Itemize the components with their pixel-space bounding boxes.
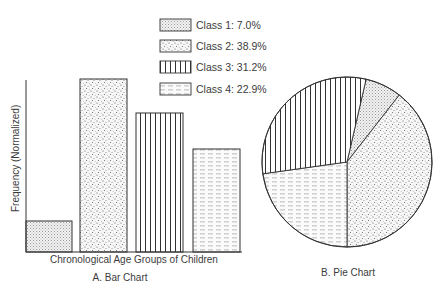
bar-class-2	[80, 79, 127, 252]
figure: Class 1: 7.0% Class 2: 38.9% Class 3: 31…	[0, 0, 446, 296]
legend-item-class-1: Class 1: 7.0%	[160, 19, 261, 31]
pie-chart: B. Pie Chart	[262, 77, 432, 278]
legend-item-class-4: Class 4: 22.9%	[160, 83, 267, 95]
legend-label: Class 1: 7.0%	[196, 19, 261, 31]
pie-chart-caption: B. Pie Chart	[321, 267, 375, 278]
bar-class-3	[136, 113, 183, 252]
legend-label: Class 3: 31.2%	[196, 61, 267, 73]
legend-swatch-dashed-lines-icon	[160, 83, 191, 95]
legend-swatch-fine-dots-icon	[160, 19, 191, 31]
legend-label: Class 2: 38.9%	[196, 40, 267, 52]
bar-class-1	[26, 221, 72, 252]
bar-chart-caption: A. Bar Chart	[92, 272, 147, 283]
legend-item-class-2: Class 2: 38.9%	[160, 40, 267, 52]
pie-slice-class-4	[263, 162, 347, 247]
x-axis-label: Chronological Age Groups of Children	[50, 254, 218, 265]
bar-chart: Frequency (Normalized) Chronological Age…	[10, 79, 242, 283]
legend-label: Class 4: 22.9%	[196, 83, 267, 95]
y-axis-label: Frequency (Normalized)	[10, 105, 21, 212]
legend-swatch-vertical-lines-icon	[160, 61, 191, 73]
legend: Class 1: 7.0% Class 2: 38.9% Class 3: 31…	[160, 19, 267, 95]
legend-swatch-coarse-dots-icon	[160, 40, 191, 52]
legend-item-class-3: Class 3: 31.2%	[160, 61, 267, 73]
bar-class-4	[193, 149, 240, 252]
